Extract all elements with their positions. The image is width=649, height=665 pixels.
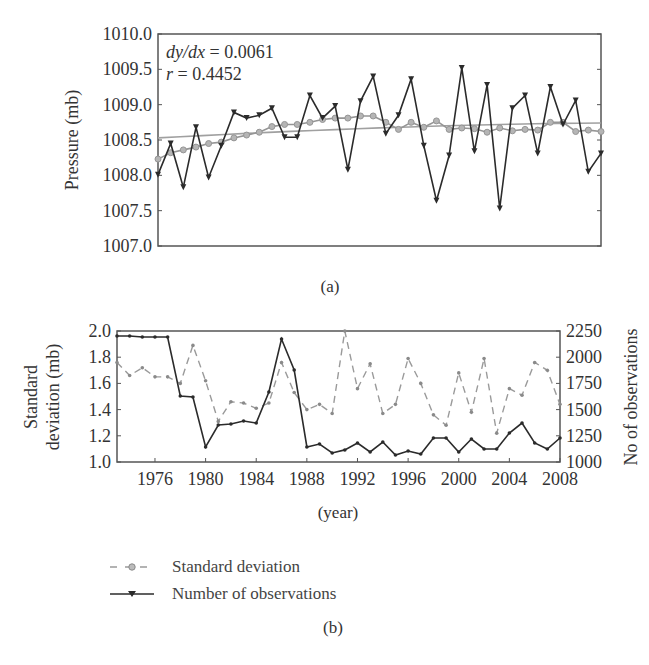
triangle-marker-icon [307, 92, 313, 98]
triangle-marker-icon [218, 143, 224, 149]
slope-annotation: dy/dx = 0.0061 [166, 42, 274, 62]
triangle-marker-icon [421, 143, 427, 149]
panel-b-caption: (b) [323, 618, 343, 638]
triangle-marker-icon [166, 335, 170, 339]
circle-marker-icon [394, 403, 398, 407]
circle-marker-icon [522, 126, 528, 132]
circle-marker-icon [178, 382, 182, 386]
triangle-marker-icon [546, 447, 550, 451]
triangle-marker-icon [433, 198, 439, 204]
panel-a-caption: (a) [321, 277, 340, 296]
x-tick-label: 1976 [137, 469, 173, 489]
triangle-marker-icon [206, 174, 212, 180]
x-tick-label: 1988 [289, 469, 325, 489]
triangle-marker-icon [231, 109, 237, 115]
triangle-marker-icon [495, 447, 499, 451]
panel-b-right-y-axis-label: No of observations [621, 329, 641, 466]
triangle-marker-icon [242, 419, 246, 423]
circle-marker-icon [141, 366, 145, 370]
circle-marker-icon [573, 129, 579, 135]
triangle-marker-icon [155, 172, 161, 178]
triangle-marker-icon [497, 206, 503, 212]
figure: 1010.01009.51009.01008.51008.01007.51007… [0, 0, 649, 665]
triangle-marker-icon [305, 445, 309, 449]
triangle-marker-icon [573, 97, 579, 103]
circle-marker-icon [330, 412, 334, 416]
circle-marker-icon [419, 382, 423, 386]
circle-marker-icon [294, 121, 300, 127]
triangle-marker-icon [318, 442, 322, 446]
circle-marker-icon [254, 406, 258, 410]
triangle-marker-icon [345, 167, 351, 173]
circle-marker-icon [267, 401, 271, 405]
circle-marker-icon [484, 129, 490, 135]
x-tick-label: 2008 [542, 469, 578, 489]
circle-marker-icon [229, 400, 233, 404]
circle-marker-icon [128, 374, 132, 378]
circle-marker-icon [282, 121, 288, 127]
triangle-marker-icon [535, 150, 541, 156]
right-y-tick-label: 1250 [566, 426, 602, 446]
circle-marker-icon [444, 424, 448, 428]
circle-marker-icon [535, 127, 541, 133]
standard-deviation-line [117, 331, 560, 433]
triangle-marker-icon [547, 84, 553, 90]
left-y-tick-label: 1.0 [89, 452, 112, 472]
circle-marker-icon [598, 129, 604, 135]
x-tick-label: 1984 [238, 469, 274, 489]
triangle-marker-icon [419, 452, 423, 456]
circle-marker-icon [242, 401, 246, 405]
circle-marker-icon [585, 127, 591, 133]
circle-marker-icon [180, 147, 186, 153]
circle-marker-icon [433, 118, 439, 124]
circle-marker-icon [446, 126, 452, 132]
y-tick-label: 1008.0 [103, 165, 153, 185]
triangle-marker-icon [280, 337, 284, 341]
circle-marker-icon [408, 119, 414, 125]
circle-marker-icon [508, 387, 512, 391]
y-tick-label: 1008.5 [103, 130, 153, 150]
triangle-marker-icon [432, 436, 436, 440]
triangle-marker-icon [358, 98, 364, 104]
circle-marker-icon [292, 391, 296, 395]
y-tick-label: 1007.5 [103, 201, 153, 221]
circle-marker-icon [166, 375, 170, 379]
circle-marker-icon [216, 420, 220, 424]
legend-item-standard-deviation: Standard deviation [108, 553, 336, 580]
triangle-marker-icon [394, 453, 398, 457]
triangle-marker-icon [254, 421, 258, 425]
circle-marker-icon [191, 344, 195, 348]
circle-marker-icon [421, 124, 427, 130]
y-tick-label: 1007.0 [103, 236, 153, 256]
circle-marker-icon [558, 403, 562, 407]
triangle-marker-icon [370, 73, 376, 79]
triangle-marker-icon [267, 390, 271, 394]
triangle-marker-icon [191, 395, 195, 399]
x-tick-label: 2000 [441, 469, 477, 489]
circle-marker-icon [305, 408, 309, 412]
panel-b-right-y-ticks: 225020001750150012501000 [556, 321, 602, 472]
x-tick-label: 1996 [390, 469, 426, 489]
circle-marker-icon [153, 375, 157, 379]
circle-marker-icon [370, 113, 376, 119]
circle-marker-icon [155, 156, 161, 162]
circle-marker-icon [406, 357, 410, 361]
triangle-marker-icon [585, 169, 591, 175]
triangle-marker-icon [178, 394, 182, 398]
circle-marker-icon [206, 141, 212, 147]
triangle-marker-icon [508, 431, 512, 435]
right-y-tick-label: 1500 [566, 400, 602, 420]
left-y-tick-label: 2.0 [89, 321, 112, 341]
right-y-tick-label: 2000 [566, 347, 602, 367]
triangle-marker-icon [330, 451, 334, 455]
x-tick-label: 1980 [188, 469, 224, 489]
solid-triangle-line-icon [108, 587, 156, 601]
circle-marker-icon [345, 115, 351, 121]
panel-b-std-obs-chart: 2.01.81.61.41.21.0 225020001750150012501… [21, 321, 641, 522]
circle-marker-icon [307, 119, 313, 125]
triangle-marker-icon [444, 436, 448, 440]
circle-marker-icon [204, 379, 208, 383]
circle-marker-icon [343, 329, 347, 333]
panel-b-series [115, 329, 562, 457]
circle-marker-icon [193, 144, 199, 150]
